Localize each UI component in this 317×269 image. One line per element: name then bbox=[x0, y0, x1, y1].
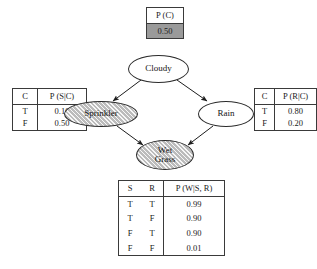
cpt-pwsr-row3-r: F bbox=[141, 241, 164, 256]
table-row: T T 0.99 bbox=[119, 196, 225, 211]
cpt-pwsr-header-r: R bbox=[141, 181, 164, 197]
cpt-pwsr-row3-value: 0.01 bbox=[164, 241, 225, 256]
cpt-psc-header-value: P (S|C) bbox=[38, 89, 87, 105]
edge-sprinkler-wetgrass bbox=[117, 126, 143, 145]
cpt-pwsr-row2-value: 0.90 bbox=[164, 226, 225, 241]
bayesian-network-diagram: P (C) 0.50 Cloudy Sprinkler Rain Wet Gra… bbox=[0, 0, 317, 269]
cpt-pwsr-row0-s: T bbox=[119, 196, 142, 211]
cpt-pwsr-row0-r: T bbox=[141, 196, 164, 211]
table-row: F F 0.01 bbox=[119, 241, 225, 256]
cpt-pwsr-header-s: S bbox=[119, 181, 142, 197]
cpt-pwsr-row0-value: 0.99 bbox=[164, 196, 225, 211]
cpt-pwsr-row3-s: F bbox=[119, 241, 142, 256]
node-sprinkler-label: Sprinkler bbox=[84, 109, 118, 118]
node-cloudy-label: Cloudy bbox=[145, 64, 172, 73]
cpt-prc-row0-value: 0.80 bbox=[275, 104, 317, 117]
cpt-pwsr-row2-r: T bbox=[141, 226, 164, 241]
table-row: S R P (W|S, R) bbox=[119, 181, 225, 197]
cpt-prc-header-cond: C bbox=[255, 89, 275, 105]
table-row: P (C) bbox=[147, 8, 184, 24]
cpt-prc-row1-value: 0.20 bbox=[275, 117, 317, 130]
cpt-prc-row0-cond: T bbox=[255, 104, 275, 117]
cpt-psc-row0-cond: T bbox=[13, 104, 38, 117]
cpt-table-wet-grass: S R P (W|S, R) T T 0.99 T F 0.90 F T 0.9… bbox=[118, 180, 225, 256]
cpt-pwsr-row1-r: F bbox=[141, 211, 164, 226]
cpt-table-prior-cloudy: P (C) 0.50 bbox=[146, 7, 184, 39]
cpt-pwsr-row2-s: F bbox=[119, 226, 142, 241]
cpt-pwsr-header-value: P (W|S, R) bbox=[164, 181, 225, 197]
node-rain[interactable]: Rain bbox=[198, 101, 254, 127]
node-wet-grass-label-line2: Grass bbox=[155, 155, 176, 164]
edge-cloudy-rain bbox=[177, 80, 207, 101]
cpt-psc-row1-cond: F bbox=[13, 117, 38, 130]
cpt-pwsr-row1-s: T bbox=[119, 211, 142, 226]
cpt-pc-value: 0.50 bbox=[147, 23, 184, 39]
node-cloudy[interactable]: Cloudy bbox=[128, 55, 189, 83]
table-row: T 0.80 bbox=[255, 104, 317, 117]
table-row: C P (S|C) bbox=[13, 89, 87, 105]
cpt-prc-header-value: P (R|C) bbox=[275, 89, 317, 105]
cpt-pc-header: P (C) bbox=[147, 8, 184, 24]
node-sprinkler[interactable]: Sprinkler bbox=[64, 101, 138, 127]
table-row: F T 0.90 bbox=[119, 226, 225, 241]
table-row: F 0.20 bbox=[255, 117, 317, 130]
edge-cloudy-sprinkler bbox=[113, 80, 141, 101]
table-row: C P (R|C) bbox=[255, 89, 317, 105]
table-row: 0.50 bbox=[147, 23, 184, 39]
cpt-prc-row1-cond: F bbox=[255, 117, 275, 130]
node-wet-grass-label: Wet Grass bbox=[155, 146, 176, 165]
cpt-pwsr-row1-value: 0.90 bbox=[164, 211, 225, 226]
node-rain-label: Rain bbox=[218, 109, 235, 118]
table-row: T F 0.90 bbox=[119, 211, 225, 226]
cpt-table-rain: C P (R|C) T 0.80 F 0.20 bbox=[254, 88, 317, 131]
node-wet-grass[interactable]: Wet Grass bbox=[136, 140, 194, 170]
cpt-psc-header-cond: C bbox=[13, 89, 38, 105]
edge-rain-wetgrass bbox=[188, 126, 213, 145]
